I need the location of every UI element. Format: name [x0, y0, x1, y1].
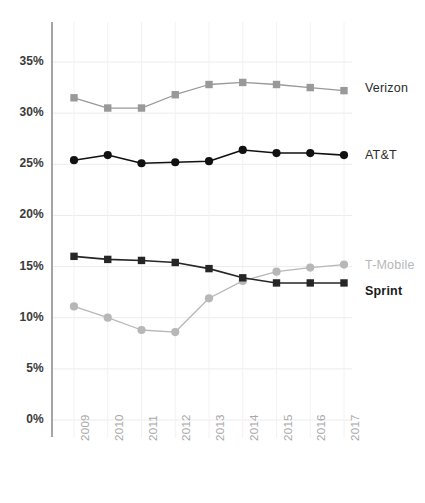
data-point-sprint-2012: [172, 259, 179, 266]
data-point-verizon-2013: [205, 81, 212, 88]
plot-area: [0, 0, 425, 503]
x-axis-tick-label: 2017: [349, 414, 361, 441]
data-point-sprint-2009: [70, 253, 77, 260]
data-point-sprint-2015: [273, 279, 280, 286]
data-point-verizon-2016: [307, 84, 314, 91]
y-axis-tick-label: 10%: [10, 310, 44, 324]
data-point-sprint-2016: [307, 279, 314, 286]
data-point-t-mobile-2010: [104, 314, 112, 322]
data-point-t-mobile-2011: [137, 326, 145, 334]
data-point-at-t-2009: [70, 156, 78, 164]
data-point-verizon-2014: [239, 79, 246, 86]
data-point-t-mobile-2017: [340, 260, 348, 268]
y-axis-tick-label: 0%: [10, 412, 44, 426]
data-point-t-mobile-2015: [272, 268, 280, 276]
y-axis-tick-label: 20%: [10, 207, 44, 221]
data-point-verizon-2010: [104, 104, 111, 111]
data-point-at-t-2012: [171, 158, 179, 166]
data-point-verizon-2017: [340, 87, 347, 94]
y-axis-tick-label: 15%: [10, 259, 44, 273]
data-point-sprint-2014: [239, 274, 246, 281]
x-axis-tick-label: 2010: [113, 414, 125, 441]
series-label-verizon: Verizon: [365, 81, 408, 95]
x-axis-tick-label: 2014: [248, 414, 260, 441]
data-point-at-t-2017: [340, 151, 348, 159]
y-axis-tick-label: 5%: [10, 361, 44, 375]
data-point-t-mobile-2016: [306, 263, 314, 271]
data-point-verizon-2011: [138, 104, 145, 111]
x-axis-tick-label: 2012: [180, 414, 192, 441]
data-point-at-t-2011: [137, 159, 145, 167]
x-axis-tick-label: 2011: [147, 415, 159, 441]
x-axis-tick-label: 2015: [282, 414, 294, 441]
data-point-at-t-2013: [205, 157, 213, 165]
data-point-verizon-2012: [172, 91, 179, 98]
x-axis-tick-label: 2009: [79, 414, 91, 441]
data-point-t-mobile-2013: [205, 294, 213, 302]
data-point-at-t-2010: [104, 151, 112, 159]
series-label-sprint: Sprint: [365, 284, 402, 298]
series-label-at-t: AT&T: [365, 148, 397, 162]
y-axis-tick-label: 35%: [10, 54, 44, 68]
data-point-verizon-2009: [70, 94, 77, 101]
data-point-at-t-2015: [272, 149, 280, 157]
data-point-sprint-2011: [138, 257, 145, 264]
line-chart: 0%5%10%15%20%25%30%35%200920102011201220…: [0, 0, 425, 503]
data-point-verizon-2015: [273, 81, 280, 88]
data-point-sprint-2013: [205, 265, 212, 272]
data-point-sprint-2017: [340, 279, 347, 286]
x-axis-tick-label: 2013: [214, 414, 226, 441]
data-point-t-mobile-2012: [171, 328, 179, 336]
data-point-at-t-2016: [306, 149, 314, 157]
x-axis-tick-label: 2016: [315, 414, 327, 441]
data-point-at-t-2014: [239, 146, 247, 154]
data-point-t-mobile-2009: [70, 302, 78, 310]
series-label-t-mobile: T-Mobile: [365, 258, 415, 272]
data-point-sprint-2010: [104, 256, 111, 263]
y-axis-tick-label: 25%: [10, 156, 44, 170]
y-axis-tick-label: 30%: [10, 105, 44, 119]
